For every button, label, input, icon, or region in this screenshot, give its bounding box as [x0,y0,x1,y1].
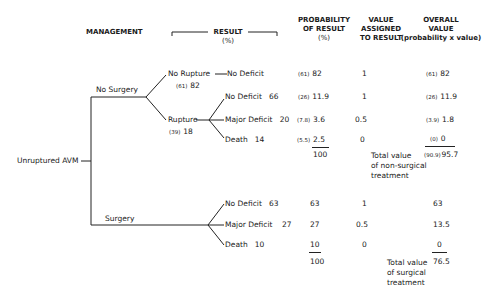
s-prob: 63 [310,200,320,208]
no-rupture-pct: (61)82 [176,82,200,90]
ns-outcome-label: No Deficit 66 [225,93,279,101]
s-overall: 63 [433,200,443,208]
no-surgery-label: No Surgery [96,86,138,94]
ns-overall: (3.9)1.8 [426,116,454,124]
rupture-label: Rupture [168,116,198,124]
ns-total-value: (90.9)95.7 [424,151,458,159]
ns-value: 1 [362,93,367,101]
decision-tree-lines [0,0,489,299]
ns-value: 1 [362,70,367,78]
s-value: 1 [362,200,367,208]
no-rupture-label: No Rupture [168,70,210,78]
surgery-label: Surgery [105,215,134,223]
header-overall-value: OVERALL VALUE (probability x value) [401,16,481,43]
ns-value: 0.5 [355,116,367,124]
s-value: 0.5 [356,221,368,229]
ns-overall: (61)82 [426,70,450,78]
ns-prob: (26)11.9 [298,93,329,101]
sum-rule [312,147,329,148]
s-prob: 27 [310,221,320,229]
ns-prob-total: 100 [313,151,327,159]
s-outcome-label: No Deficit 63 [225,200,279,208]
header-result: RESULT (%) [214,28,243,46]
ns-outcome-label: Major Deficit 20 [225,116,289,124]
ns-total-label: Total value of non-surgical treatment [371,151,427,181]
s-prob: 10 [310,241,320,249]
s-outcome-label: Major Deficit 27 [225,221,292,229]
root-label: Unruptured AVM [17,157,78,165]
ns-prob: (61)82 [298,70,322,78]
sum-rule [432,252,447,253]
header-management: MANAGEMENT [86,28,143,37]
s-outcome-label: Death 10 [225,241,264,249]
ns-value: 0 [360,136,365,144]
s-overall: 0 [437,241,442,249]
ns-overall: (0)0 [430,135,446,143]
s-overall: 13.5 [433,221,450,229]
header-probability: PROBABILITY OF RESULT (%) [298,16,350,43]
sum-rule [425,146,455,147]
ns-overall: (26)11.9 [426,93,457,101]
ns-outcome-label: No Deficit [227,70,264,78]
sum-rule [309,252,321,253]
s-total-value: 76.5 [433,258,450,266]
s-prob-total: 100 [310,258,324,266]
header-value-assigned: VALUE ASSIGNED TO RESULT [360,16,402,43]
s-value: 0 [362,241,367,249]
rupture-pct: (39)18 [169,128,193,136]
ns-outcome-label: Death 14 [225,136,264,144]
s-total-label: Total value of surgical treatment [387,258,427,288]
ns-prob: (7.8)3.6 [297,116,325,124]
ns-prob: (5.5)2.5 [297,136,325,144]
